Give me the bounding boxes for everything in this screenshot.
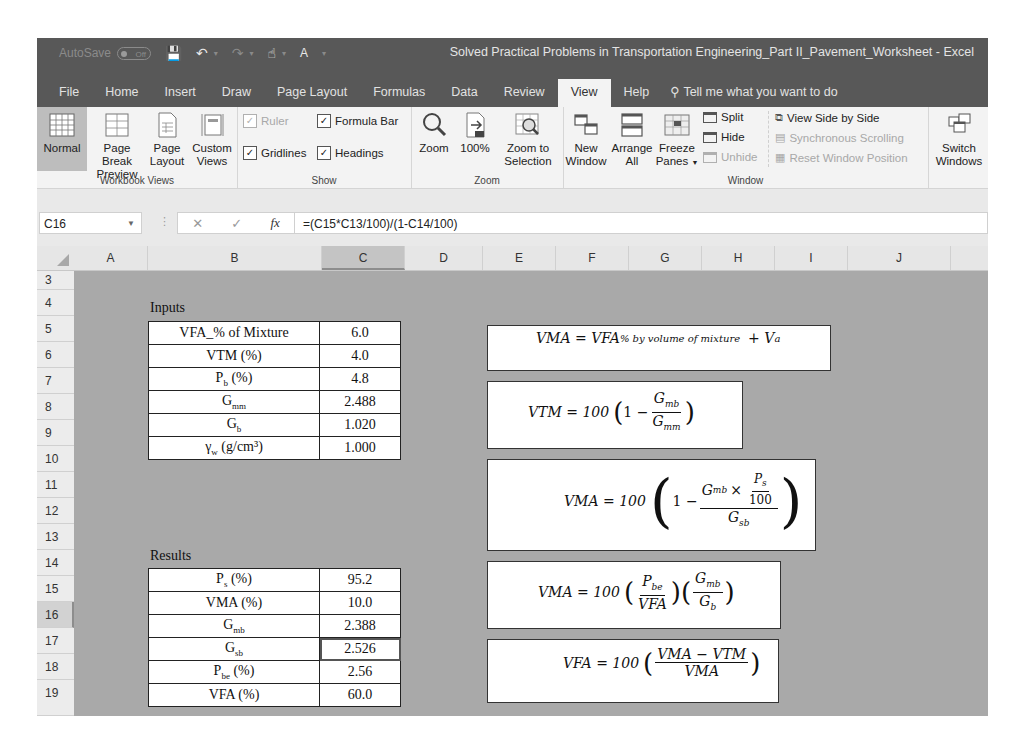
hide-button[interactable]: Hide	[703, 131, 745, 143]
search-icon[interactable]: ⚲	[662, 79, 679, 107]
font-color-icon[interactable]: A	[300, 46, 308, 60]
row-header[interactable]: 3	[37, 271, 74, 290]
row-header[interactable]: 11	[37, 472, 74, 498]
row-header[interactable]: 15	[37, 576, 74, 602]
synchronous-scrolling-button[interactable]: ▤ Synchronous Scrolling	[775, 131, 904, 144]
tab-data[interactable]: Data	[438, 79, 490, 107]
result-label[interactable]: Gsb	[149, 638, 320, 661]
row-header-selected[interactable]: 16	[37, 602, 74, 628]
insert-function-icon[interactable]: fx	[270, 215, 279, 231]
formula-bar-checkbox[interactable]: ✓ Formula Bar	[317, 114, 398, 128]
touch-dropdown-icon[interactable]: ▾	[282, 49, 286, 58]
zoom-100-button[interactable]: 100%	[455, 107, 495, 171]
zoom-to-selection-button[interactable]: Zoom to Selection	[497, 107, 559, 171]
custom-views-button[interactable]: Custom Views	[189, 107, 235, 171]
worksheet-grid[interactable]: Inputs VFA_% of Mixture6.0 VTM (%)4.0 Pb…	[74, 271, 988, 716]
undo-dropdown-icon[interactable]: ▾	[214, 49, 218, 58]
row-header[interactable]: 13	[37, 524, 74, 550]
view-side-by-side-button[interactable]: ⧉ View Side by Side	[775, 111, 879, 124]
column-header-a[interactable]: A	[74, 246, 148, 270]
tab-review[interactable]: Review	[491, 79, 558, 107]
result-value[interactable]: 95.2	[320, 569, 401, 592]
row-header[interactable]: 4	[37, 290, 74, 316]
tab-view[interactable]: View	[558, 79, 611, 107]
result-label[interactable]: Gmb	[149, 615, 320, 638]
new-window-button[interactable]: New Window	[563, 107, 609, 171]
row-header[interactable]: 14	[37, 550, 74, 576]
row-header[interactable]: 17	[37, 628, 74, 654]
touch-mode-icon[interactable]: ☝	[268, 45, 277, 61]
column-header-f[interactable]: F	[556, 246, 629, 270]
freeze-panes-button[interactable]: Freeze Panes ▼	[655, 107, 699, 171]
headings-checkbox[interactable]: ✓ Headings	[317, 146, 384, 160]
autosave-toggle[interactable]: Off	[117, 47, 151, 60]
ruler-checkbox[interactable]: ✓ Ruler	[243, 114, 288, 128]
formula-input[interactable]: =(C15*C13/100)/(1-C14/100)	[295, 212, 988, 234]
row-header[interactable]: 5	[37, 316, 74, 342]
tab-page-layout[interactable]: Page Layout	[264, 79, 360, 107]
column-header-j[interactable]: J	[848, 246, 951, 270]
redo-icon[interactable]: ↷	[232, 45, 244, 61]
arrange-all-button[interactable]: Arrange All	[609, 107, 655, 171]
page-layout-button[interactable]: Page Layout	[145, 107, 189, 171]
enter-icon[interactable]: ✓	[231, 216, 242, 231]
column-header-e[interactable]: E	[483, 246, 556, 270]
input-label[interactable]: VTM (%)	[149, 345, 320, 368]
row-header[interactable]: 6	[37, 342, 74, 368]
tab-help[interactable]: Help	[611, 79, 663, 107]
name-box-dropdown-icon[interactable]: ▼	[127, 213, 135, 235]
save-icon[interactable]: 💾	[165, 45, 182, 61]
formula-bar-resize-handle[interactable]: ⋮	[159, 215, 170, 228]
input-label[interactable]: VFA_% of Mixture	[149, 322, 320, 345]
tab-insert[interactable]: Insert	[152, 79, 209, 107]
customize-qat-icon[interactable]: ▾	[322, 49, 326, 58]
name-box[interactable]: C16 ▼	[39, 212, 142, 234]
column-header-b[interactable]: B	[148, 246, 322, 270]
column-header-c[interactable]: C	[322, 246, 405, 270]
row-header[interactable]: 18	[37, 654, 74, 680]
switch-windows-button[interactable]: Switch Windows	[931, 107, 987, 171]
row-header[interactable]: 8	[37, 394, 74, 420]
result-label[interactable]: VFA (%)	[149, 684, 320, 707]
result-label[interactable]: Pbe (%)	[149, 661, 320, 684]
page-break-preview-button[interactable]: Page Break Preview	[89, 107, 145, 171]
row-header[interactable]: 9	[37, 420, 74, 446]
column-header-i[interactable]: I	[775, 246, 848, 270]
tab-draw[interactable]: Draw	[209, 79, 264, 107]
equation-vma-vfa[interactable]: VMA = VFA% by volume of mixture + Va	[487, 325, 831, 371]
equation-vfa[interactable]: VFA = 100 ( VMA − VTMVMA )	[487, 639, 779, 703]
column-header-d[interactable]: D	[405, 246, 483, 270]
row-header[interactable]: 12	[37, 498, 74, 524]
input-value[interactable]: 4.8	[320, 368, 401, 391]
selected-cell-c16[interactable]: 2.526	[320, 638, 401, 661]
equation-vtm[interactable]: VTM = 100 ( 1 − GmbGmm )	[487, 381, 743, 449]
cancel-icon[interactable]: ✕	[192, 216, 203, 231]
result-value[interactable]: 10.0	[320, 592, 401, 615]
split-button[interactable]: Split	[703, 111, 743, 123]
input-value[interactable]: 6.0	[320, 322, 401, 345]
input-label[interactable]: Pb (%)	[149, 368, 320, 391]
input-label[interactable]: Gb	[149, 414, 320, 437]
input-label[interactable]: Gmm	[149, 391, 320, 414]
undo-icon[interactable]: ↶	[196, 45, 208, 61]
input-label[interactable]: γw (g/cm³)	[149, 437, 320, 460]
input-value[interactable]: 1.000	[320, 437, 401, 460]
column-header-h[interactable]: H	[702, 246, 775, 270]
row-header[interactable]: 19	[37, 680, 74, 716]
column-header-g[interactable]: G	[629, 246, 702, 270]
input-value[interactable]: 1.020	[320, 414, 401, 437]
tell-me-input[interactable]: Tell me what you want to do	[679, 79, 837, 107]
tab-formulas[interactable]: Formulas	[360, 79, 438, 107]
result-value[interactable]: 60.0	[320, 684, 401, 707]
unhide-button[interactable]: Unhide	[703, 151, 757, 163]
redo-dropdown-icon[interactable]: ▾	[250, 49, 254, 58]
result-label[interactable]: Ps (%)	[149, 569, 320, 592]
equation-vma-gsb[interactable]: VMA = 100 ( 1 − Gmb×Ps100 Gsb )	[487, 459, 816, 551]
result-label[interactable]: VMA (%)	[149, 592, 320, 615]
reset-window-position-button[interactable]: ▦ Reset Window Position	[775, 151, 908, 164]
tab-home[interactable]: Home	[92, 79, 151, 107]
normal-view-button[interactable]: Normal	[37, 107, 87, 171]
row-header[interactable]: 7	[37, 368, 74, 394]
result-value[interactable]: 2.56	[320, 661, 401, 684]
input-value[interactable]: 2.488	[320, 391, 401, 414]
